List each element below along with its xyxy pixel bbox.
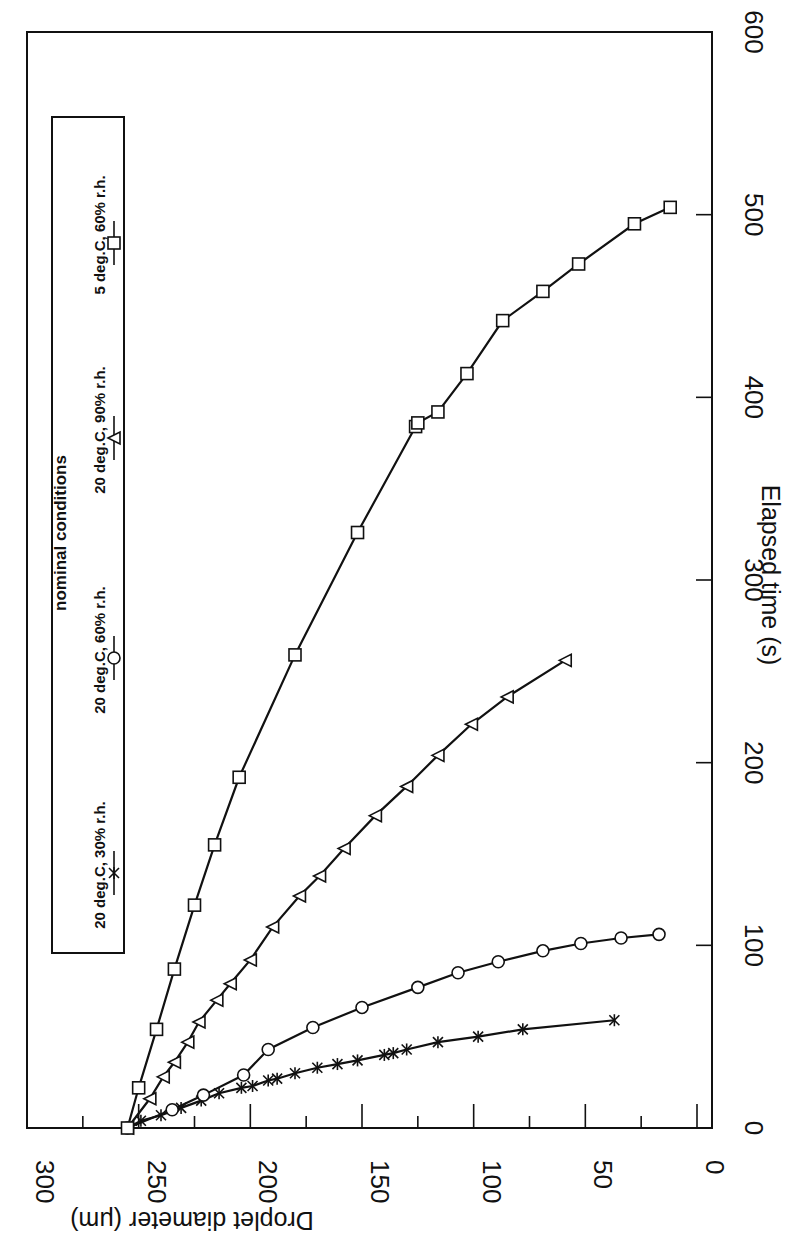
square-marker-icon — [537, 285, 549, 297]
square-marker-icon — [352, 527, 364, 539]
circle-marker-icon — [575, 938, 587, 950]
asterisk-marker-icon — [109, 867, 119, 879]
triangle-marker-icon — [193, 1016, 205, 1028]
droplet-evaporation-chart: nominal conditions20 deg.C, 30% r.h.20 d… — [0, 0, 795, 1247]
square-marker-icon — [189, 899, 201, 911]
square-marker-icon — [209, 839, 221, 851]
circle-marker-icon — [615, 932, 627, 944]
y-axis-title: Droplet diameter (μm) — [70, 1207, 314, 1235]
triangle-marker-icon — [559, 654, 571, 666]
series-layer — [122, 201, 677, 1134]
series-line — [128, 1020, 615, 1128]
legend-entry-label: 5 deg.C, 60% r.h. — [91, 175, 108, 294]
square-marker-icon — [133, 1082, 145, 1094]
plot-border — [27, 32, 712, 1128]
square-marker-icon — [432, 406, 444, 418]
square-marker-icon — [497, 315, 509, 327]
time-tick-label: 400 — [739, 376, 769, 419]
circle-marker-icon — [262, 1043, 274, 1055]
legend-marker — [109, 867, 119, 879]
plot-frame — [27, 32, 712, 1128]
square-marker-icon — [664, 201, 676, 213]
time-tick-label: 200 — [739, 741, 769, 784]
time-tick-label: 300 — [739, 558, 769, 601]
square-marker-icon — [461, 368, 473, 380]
square-marker-icon — [122, 1122, 134, 1134]
square-marker-icon — [168, 963, 180, 975]
series-asterisk — [123, 1014, 620, 1134]
circle-marker-icon — [653, 928, 665, 940]
circle-marker-icon — [238, 1069, 250, 1081]
circle-marker-icon — [307, 1022, 319, 1034]
time-tick-label: 600 — [739, 10, 769, 53]
diameter-tick-label: 250 — [142, 1160, 172, 1203]
legend-marker — [108, 652, 120, 664]
legend-entry-label: 20 deg.C, 90% r.h. — [91, 366, 108, 494]
legend-title: nominal conditions — [51, 455, 70, 611]
circle-marker-icon — [197, 1089, 209, 1101]
square-marker-icon — [628, 218, 640, 230]
circle-marker-icon — [356, 1001, 368, 1013]
diameter-tick-label: 200 — [253, 1160, 283, 1203]
triangle-marker-icon — [267, 921, 279, 933]
square-marker-icon — [573, 258, 585, 270]
diameter-tick-label: 50 — [588, 1160, 618, 1189]
circle-marker-icon — [412, 981, 424, 993]
circle-marker-icon — [166, 1104, 178, 1116]
series-line — [128, 660, 566, 1128]
square-marker-icon — [108, 237, 120, 249]
diameter-tick-label: 150 — [365, 1160, 395, 1203]
legend-marker — [108, 237, 120, 249]
series-line — [128, 207, 671, 1128]
circle-marker-icon — [537, 945, 549, 957]
square-marker-icon — [289, 649, 301, 661]
square-marker-icon — [233, 771, 245, 783]
circle-marker-icon — [492, 956, 504, 968]
time-tick-label: 0 — [739, 1121, 769, 1135]
triangle-marker-icon — [182, 1036, 194, 1048]
diameter-tick-label: 300 — [30, 1160, 60, 1203]
square-marker-icon — [151, 1023, 163, 1035]
axis-ticks — [27, 32, 712, 1128]
triangle-marker-icon — [157, 1071, 169, 1083]
square-marker-icon — [412, 417, 424, 429]
time-tick-label: 500 — [739, 193, 769, 236]
circle-marker-icon — [108, 652, 120, 664]
legend-entry-label: 20 deg.C, 60% r.h. — [91, 586, 108, 714]
diameter-tick-label: 100 — [477, 1160, 507, 1203]
legend-entry-label: 20 deg.C, 30% r.h. — [91, 801, 108, 929]
legend: nominal conditions20 deg.C, 30% r.h.20 d… — [51, 117, 124, 953]
diameter-tick-label: 0 — [700, 1160, 730, 1174]
circle-marker-icon — [452, 967, 464, 979]
time-tick-label: 100 — [739, 924, 769, 967]
